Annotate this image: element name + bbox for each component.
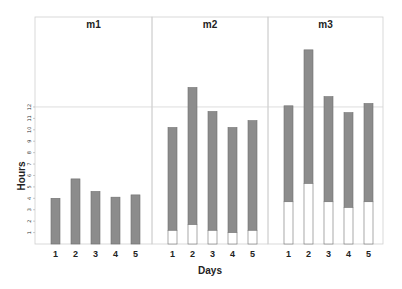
bar-segment-lower — [188, 225, 197, 244]
bar-segment-upper — [91, 191, 100, 244]
x-tick-label: 3 — [93, 249, 98, 259]
x-tick-label: 4 — [230, 249, 235, 259]
bar-segment-lower — [208, 230, 217, 244]
bar-segment-upper — [71, 179, 80, 244]
bar-segment-upper — [188, 88, 197, 225]
bar-segment-lower — [168, 230, 177, 244]
bar — [168, 128, 177, 244]
bar-segment-upper — [304, 50, 313, 184]
x-tick-label: 2 — [73, 249, 78, 259]
x-tick-label: 5 — [133, 249, 138, 259]
bar-segment-lower — [248, 230, 257, 244]
x-tick-label: 2 — [306, 249, 311, 259]
bar — [111, 197, 120, 244]
bar-segment-upper — [208, 112, 217, 231]
bar — [131, 195, 140, 244]
bar-segment-upper — [111, 197, 120, 244]
bar — [71, 179, 80, 244]
x-tick-label: 3 — [210, 249, 215, 259]
bar-segment-upper — [248, 121, 257, 231]
panel-m2: m212345 — [152, 17, 268, 259]
panel-label: m2 — [203, 19, 218, 30]
x-tick-label: 5 — [366, 249, 371, 259]
bar-segment-lower — [284, 202, 293, 244]
y-tick-label: 7 — [26, 162, 32, 165]
bar-segment-lower — [364, 202, 373, 244]
panel-m1: m112345 — [35, 17, 152, 259]
bar — [304, 50, 313, 244]
bar — [344, 113, 353, 244]
x-axis-label: Days — [198, 265, 222, 276]
x-tick-label: 3 — [326, 249, 331, 259]
panel-label: m3 — [318, 19, 333, 30]
bar-segment-lower — [228, 233, 237, 244]
bar — [364, 104, 373, 244]
bar — [91, 191, 100, 244]
y-tick-label: 9 — [26, 140, 32, 143]
y-tick-label: 1 — [26, 231, 32, 234]
y-tick-label: 3 — [26, 208, 32, 211]
bar-segment-upper — [168, 128, 177, 231]
bar-segment-upper — [324, 97, 333, 202]
bar — [228, 128, 237, 244]
panel-m3: m312345 — [268, 17, 383, 259]
bar-segment-upper — [364, 104, 373, 202]
y-tick-label: 4 — [26, 197, 32, 200]
y-axis-label: Hours — [16, 161, 27, 190]
bar-segment-upper — [284, 106, 293, 202]
y-tick-label: 2 — [26, 220, 32, 223]
y-tick-label: 5 — [26, 185, 32, 188]
bar — [324, 97, 333, 244]
bar-segment-lower — [324, 202, 333, 244]
x-tick-label: 1 — [170, 249, 175, 259]
panel-label: m1 — [86, 19, 101, 30]
x-tick-label: 2 — [190, 249, 195, 259]
bar — [51, 198, 60, 244]
bar — [248, 121, 257, 244]
bar-segment-upper — [131, 195, 140, 244]
y-tick-label: 10 — [26, 127, 32, 133]
bar-segment-upper — [344, 113, 353, 208]
x-tick-label: 4 — [346, 249, 351, 259]
bar — [188, 88, 197, 244]
bar — [284, 106, 293, 244]
x-tick-label: 1 — [53, 249, 58, 259]
x-tick-label: 4 — [113, 249, 118, 259]
y-tick-label: 8 — [26, 151, 32, 154]
bar-segment-lower — [304, 183, 313, 244]
bar-segment-upper — [51, 198, 60, 244]
y-tick-label: 12 — [26, 104, 32, 110]
bar-segment-lower — [344, 207, 353, 244]
bar — [208, 112, 217, 244]
y-tick-label: 11 — [26, 115, 32, 121]
bar-segment-upper — [228, 128, 237, 233]
x-tick-label: 1 — [286, 249, 291, 259]
x-tick-label: 5 — [250, 249, 255, 259]
y-tick-label: 6 — [26, 174, 32, 177]
y-axis: 123456789101112 — [26, 104, 35, 234]
chart-panels: m112345m212345m312345 — [35, 17, 383, 259]
faceted-stacked-bar-chart: m112345m212345m312345 123456789101112 Ho… — [0, 0, 402, 289]
